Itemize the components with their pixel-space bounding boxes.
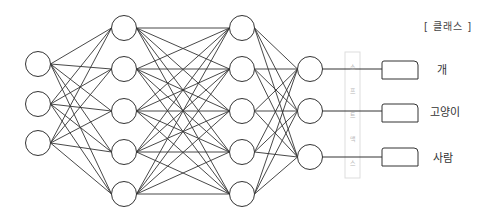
connection-edge [51, 69, 112, 104]
hidden-2-node [230, 16, 255, 41]
input-node [26, 52, 51, 77]
hidden-1-node [112, 182, 137, 207]
softmax-char: 맥 [345, 127, 360, 151]
connection-edge [51, 104, 112, 194]
softmax-char: 트 [345, 103, 360, 127]
output-node [298, 99, 323, 124]
hidden-2-node [230, 57, 255, 82]
class-output-box [382, 61, 418, 79]
softmax-char: 프 [345, 79, 360, 103]
hidden-2-node [230, 99, 255, 124]
class-output-box [382, 148, 418, 166]
class-label: 사람 [433, 149, 453, 165]
connection-edge [51, 28, 112, 143]
output-node [298, 145, 323, 170]
connection-edge [51, 28, 112, 104]
hidden-1-node [112, 16, 137, 41]
hidden-2-node [230, 182, 255, 207]
output-node [298, 57, 323, 82]
connection-edge [51, 64, 112, 152]
connection-edge [255, 111, 298, 157]
neural-network-diagram [0, 0, 482, 221]
class-label: 고양이 [430, 103, 460, 119]
connection-edge [255, 28, 298, 157]
softmax-char: 스 [345, 151, 360, 175]
output-section [323, 52, 419, 178]
classes-header: [ 클래스 ] [424, 18, 472, 33]
connection-edge [51, 64, 112, 194]
connection-edge [51, 104, 112, 111]
softmax-label: 소프트맥스 [345, 55, 360, 175]
connection-edge [51, 69, 112, 143]
connections [51, 28, 298, 194]
input-node [26, 131, 51, 156]
connection-edge [255, 28, 298, 111]
softmax-char: 소 [345, 55, 360, 79]
class-output-box [382, 104, 418, 122]
hidden-1-node [112, 140, 137, 165]
connection-edge [51, 64, 112, 111]
hidden-2-node [230, 140, 255, 165]
hidden-1-node [112, 57, 137, 82]
hidden-1-node [112, 99, 137, 124]
input-node [26, 92, 51, 117]
class-label: 개 [437, 61, 447, 77]
